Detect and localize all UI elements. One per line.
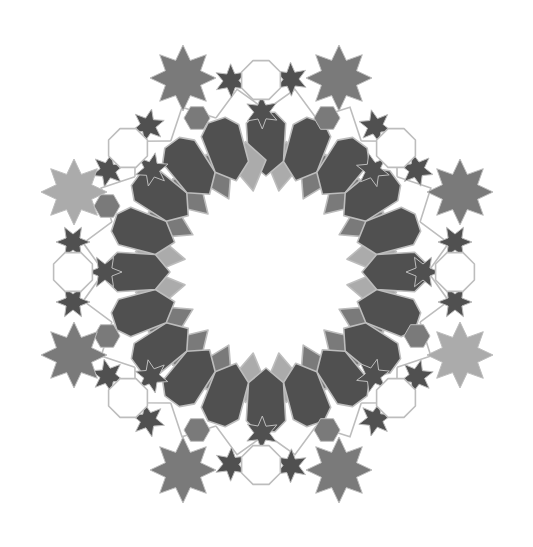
octagon-tile: [54, 253, 93, 292]
eight-point-star: [306, 437, 372, 503]
eight-point-star: [41, 322, 107, 388]
hexagon-tile: [184, 419, 210, 442]
geometric-rosette-pattern: [0, 0, 533, 547]
octagon-tile: [109, 129, 148, 168]
outer-star-ring: [41, 45, 493, 503]
eight-point-star: [150, 45, 216, 111]
octagon-tile: [377, 379, 416, 418]
eight-point-star: [41, 159, 107, 225]
eight-point-star: [306, 45, 372, 111]
eight-point-star: [427, 159, 493, 225]
octagon-tile: [109, 379, 148, 418]
octagon-tile: [436, 253, 475, 292]
octagon-tile: [242, 61, 281, 100]
eight-point-star: [427, 322, 493, 388]
eight-point-star: [150, 437, 216, 503]
octagon-tile: [242, 446, 281, 485]
octagon-tile: [377, 129, 416, 168]
rosette-figure: [0, 0, 533, 547]
